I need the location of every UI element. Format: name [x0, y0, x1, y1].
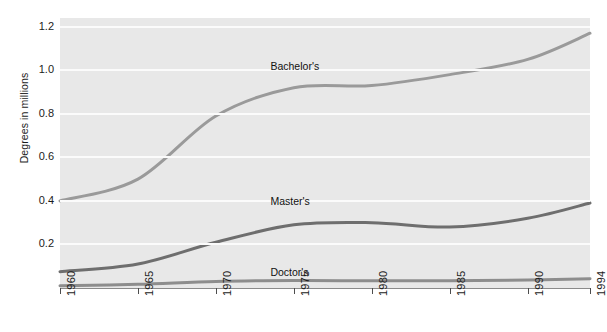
x-tick-1970 — [216, 288, 217, 294]
series-label-bachelors: Bachelor's — [270, 60, 319, 72]
series-label-masters: Master's — [270, 195, 309, 207]
gridline-y-0.6 — [60, 156, 590, 158]
y-axis-tick-labels: 0.20.40.60.81.01.2 — [18, 0, 54, 332]
y-tick-label-1.0: 1.0 — [20, 64, 54, 75]
x-tick-label-1985: 1985 — [455, 271, 467, 296]
x-tick-1960 — [60, 288, 61, 294]
series-line-masters — [60, 203, 590, 272]
x-tick-1985 — [450, 288, 451, 294]
x-tick-1994 — [590, 288, 591, 294]
y-tick-label-0.4: 0.4 — [20, 195, 54, 206]
y-tick-label-0.2: 0.2 — [20, 238, 54, 249]
x-axis-line — [60, 288, 590, 289]
x-tick-1990 — [528, 288, 529, 294]
x-tick-1980 — [372, 288, 373, 294]
x-tick-1965 — [138, 288, 139, 294]
plot-series-svg — [60, 18, 590, 288]
plot-area — [60, 18, 590, 288]
series-label-doctors: Doctor's — [270, 266, 308, 278]
y-tick-label-1.2: 1.2 — [20, 21, 54, 32]
x-tick-label-1990: 1990 — [533, 271, 545, 296]
gridline-y-0.2 — [60, 243, 590, 245]
y-tick-label-0.6: 0.6 — [20, 151, 54, 162]
x-tick-1975 — [294, 288, 295, 294]
series-line-bachelors — [60, 33, 590, 201]
gridline-y-1.0 — [60, 69, 590, 71]
x-tick-label-1994: 1994 — [595, 271, 607, 296]
x-tick-label-1970: 1970 — [221, 271, 233, 296]
series-line-doctors — [60, 279, 590, 286]
y-tick-label-0.8: 0.8 — [20, 108, 54, 119]
gridline-y-0.8 — [60, 113, 590, 115]
gridline-y-1.2 — [60, 26, 590, 28]
x-tick-label-1960: 1960 — [65, 271, 77, 296]
x-tick-label-1980: 1980 — [377, 271, 389, 296]
x-tick-label-1965: 1965 — [143, 271, 155, 296]
gridline-y-0.4 — [60, 200, 590, 202]
